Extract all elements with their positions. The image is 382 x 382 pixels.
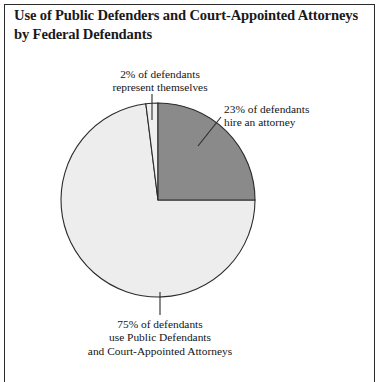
callout-public-defender: 75% of defendants use Public Defendants … <box>44 318 276 358</box>
callout-attorney-line-1: 23% of defendants <box>224 103 309 116</box>
callout-public-line-2: use Public Defendants <box>44 331 276 344</box>
callout-self-represent: 2% of defendants represent themselves <box>94 68 226 95</box>
callout-hire-attorney: 23% of defendants hire an attorney <box>224 103 309 130</box>
callout-self-line-2: represent themselves <box>94 81 226 94</box>
callout-public-line-1: 75% of defendants <box>44 318 276 331</box>
callout-self-line-1: 2% of defendants <box>94 68 226 81</box>
callout-public-line-3: and Court-Appointed Attorneys <box>44 345 276 358</box>
callout-attorney-line-2: hire an attorney <box>224 116 309 129</box>
